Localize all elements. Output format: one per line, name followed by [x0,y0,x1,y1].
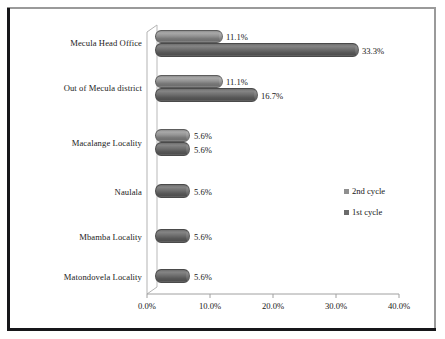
legend-item-1st-cycle[interactable]: 1st cycle [344,207,385,217]
bar-end-cap [186,270,192,282]
bar-macalange-locality-2nd-cycle[interactable] [155,129,190,142]
bar-value-out-of-mecula-district-2nd-cycle: 11.1% [226,77,248,87]
bar-value-mecula-head-office-2nd-cycle: 11.1% [226,32,248,42]
legend-label-2nd-cycle: 2nd cycle [352,186,385,196]
bar-end-cap [254,89,260,101]
bar-value-macalange-locality-2nd-cycle: 5.6% [194,131,212,141]
category-label-matondovela-locality: Matondovela Locality [0,272,142,282]
bar-value-out-of-mecula-district-1st-cycle: 16.7% [261,91,283,101]
bar-mbamba-locality-1st-cycle[interactable] [155,229,190,243]
bar-end-cap [219,31,225,42]
bar-naulala-1st-cycle[interactable] [155,184,190,198]
plot-area: Mecula Head Office Out of Mecula distric… [0,0,445,339]
xtick-label-40: 40.0% [379,301,419,311]
category-label-macalange-locality: Macalange Locality [0,138,142,148]
legend-label-1st-cycle: 1st cycle [352,207,382,217]
bar-macalange-locality-1st-cycle[interactable] [155,142,190,156]
bar-value-naulala-1st-cycle: 5.6% [194,187,212,197]
bar-value-mecula-head-office-1st-cycle: 33.3% [362,46,384,56]
bar-mecula-head-office-1st-cycle[interactable] [155,43,359,57]
chart-figure: Mecula Head Office Out of Mecula distric… [0,0,445,339]
category-label-naulala: Naulala [0,187,142,197]
chart-legend: 2nd cycle 1st cycle [344,186,385,228]
xtick-label-30: 30.0% [316,301,356,311]
bar-end-cap [186,130,192,141]
bar-value-macalange-locality-1st-cycle: 5.6% [194,145,212,155]
bar-mecula-head-office-2nd-cycle[interactable] [155,30,223,43]
bar-matondovela-locality-1st-cycle[interactable] [155,269,190,283]
xtick-label-10: 10.0% [190,301,230,311]
category-label-mbamba-locality: Mbamba Locality [0,232,142,242]
bar-end-cap [186,143,192,155]
bar-end-cap [219,76,225,87]
bar-end-cap [186,230,192,242]
xtick-label-20: 20.0% [253,301,293,311]
category-label-out-of-mecula-district: Out of Mecula district [0,83,142,93]
xtick-label-0: 0.0% [127,301,167,311]
bar-value-mbamba-locality-1st-cycle: 5.6% [194,232,212,242]
bar-end-cap [186,185,192,197]
bar-out-of-mecula-district-1st-cycle[interactable] [155,88,258,102]
bar-out-of-mecula-district-2nd-cycle[interactable] [155,75,223,88]
bar-value-matondovela-locality-1st-cycle: 5.6% [194,272,212,282]
legend-swatch-icon [344,189,349,194]
bar-end-cap [355,44,361,56]
category-label-mecula-head-office: Mecula Head Office [0,38,142,48]
legend-item-2nd-cycle[interactable]: 2nd cycle [344,186,385,196]
legend-swatch-icon [344,210,349,215]
